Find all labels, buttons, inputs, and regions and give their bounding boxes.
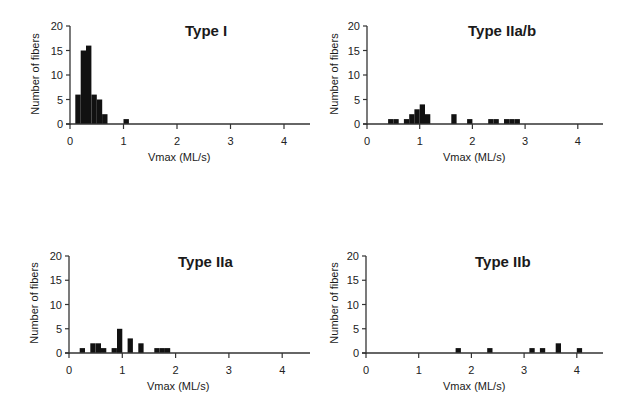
histogram-bar [456,348,461,353]
x-tick-label: 2 [468,364,474,376]
histogram-bar [487,348,492,353]
histogram-bar [556,343,561,353]
x-tick-label: 1 [416,364,422,376]
x-tick-label: 4 [574,364,580,376]
histogram-bar [540,348,545,353]
y-tick-label: 0 [353,347,359,359]
x-tick-label: 0 [363,364,369,376]
plot-area: 0510152001234 [0,0,635,405]
y-tick-label: 10 [347,299,359,311]
x-axis-label: Vmax (ML/s) [443,380,505,392]
y-tick-label: 15 [347,274,359,286]
x-tick-label: 3 [521,364,527,376]
y-axis-label: Number of fibers [328,248,340,358]
y-tick-label: 20 [347,250,359,262]
chart-title: Type IIb [475,253,531,270]
y-tick-label: 5 [353,323,359,335]
histogram-bar [529,348,534,353]
histogram-type-iib: 0510152001234 Type IIb Number of fibers … [0,0,635,405]
histogram-bar [577,348,582,353]
